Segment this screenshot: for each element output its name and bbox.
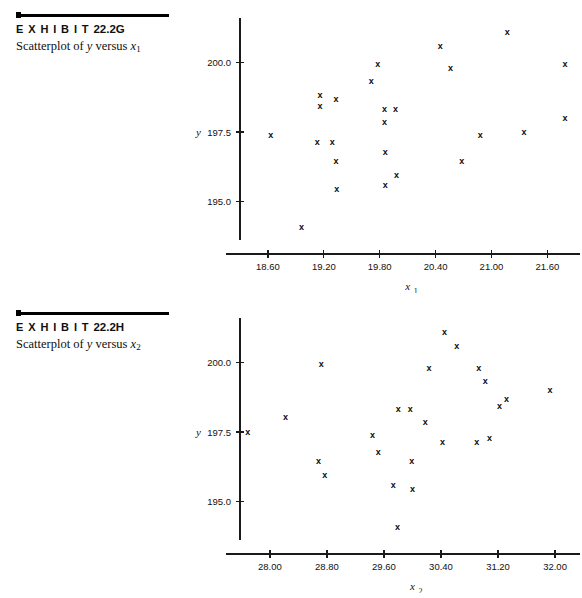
y-axis-tick-label: 197.5 [207, 427, 231, 438]
data-point-marker: x [426, 363, 431, 373]
caption-var-x-subscript: 1 [136, 44, 141, 54]
x-axis-tick-label: 31.20 [486, 561, 510, 572]
exhibit-caption-22-2g: E X H I B I T 22.2G Scatterplot of y ver… [16, 12, 186, 54]
exhibit-label-prefix: E X H I B I T [16, 23, 89, 35]
caption-prefix: Scatterplot of [16, 337, 87, 351]
data-point-marker: x [478, 130, 483, 140]
y-axis-title: y [195, 426, 201, 438]
x-axis-tick-label: 19.20 [312, 261, 336, 272]
exhibit-page: E X H I B I T 22.2G Scatterplot of y ver… [0, 0, 582, 598]
data-point-marker: x [522, 127, 527, 137]
data-point-marker: x [563, 59, 568, 69]
exhibit-subtitle-22-2h: Scatterplot of y versus x2 [16, 337, 186, 352]
data-point-marker: x [334, 184, 339, 194]
caption-prefix: Scatterplot of [16, 39, 87, 53]
y-axis-tick-label: 200.0 [207, 57, 231, 68]
exhibit-label-prefix: E X H I B I T [16, 321, 89, 333]
data-point-marker: x [410, 484, 415, 494]
data-point-marker: x [409, 456, 414, 466]
x-axis-tick-label: 32.00 [543, 561, 567, 572]
data-point-marker: x [408, 404, 413, 414]
data-point-marker: x [459, 156, 464, 166]
data-point-marker: x [395, 522, 400, 532]
data-point-marker: x [245, 427, 250, 437]
data-point-marker: x [283, 412, 288, 422]
x-axis-tick-label: 28.00 [258, 561, 282, 572]
x-axis-title-subscript: 1 [414, 287, 418, 293]
data-point-marker: x [442, 327, 447, 337]
y-axis-tick-label: 197.5 [207, 127, 231, 138]
caption-mid: versus [92, 337, 130, 351]
data-point-marker: x [487, 433, 492, 443]
exhibit-title-22-2h: E X H I B I T 22.2H [16, 321, 186, 333]
scatterplot-22-2h: 195.0197.5200.0y28.0028.8029.6030.4031.2… [190, 308, 582, 593]
y-axis-tick-label: 200.0 [207, 357, 231, 368]
data-point-marker: x [393, 104, 398, 114]
x-axis-tick-label: 30.40 [429, 561, 453, 572]
data-point-marker: x [382, 104, 387, 114]
data-point-marker: x [370, 430, 375, 440]
caption-var-x-subscript: 2 [136, 342, 141, 352]
data-point-marker: x [563, 113, 568, 123]
x-axis-title-subscript: 2 [418, 587, 422, 593]
data-point-marker: x [504, 394, 509, 404]
data-point-marker: x [394, 170, 399, 180]
exhibit-rule [16, 310, 169, 319]
scatterplot-canvas-22-2g: 195.0197.5200.0y18.6019.2019.8020.4021.0… [190, 8, 582, 293]
x-axis-tick-label: 21.00 [480, 261, 504, 272]
y-axis-tick-label: 195.0 [207, 196, 231, 207]
y-axis-tick-label: 195.0 [207, 496, 231, 507]
data-point-marker: x [333, 156, 338, 166]
exhibit-caption-22-2h: E X H I B I T 22.2H Scatterplot of y ver… [16, 310, 186, 352]
data-point-marker: x [474, 437, 479, 447]
x-axis-title: x [409, 580, 415, 592]
data-point-marker: x [440, 437, 445, 447]
data-point-marker: x [383, 147, 388, 157]
exhibit-title-22-2g: E X H I B I T 22.2G [16, 23, 186, 35]
data-point-marker: x [396, 404, 401, 414]
data-point-marker: x [318, 101, 323, 111]
scatterplot-22-2g: 195.0197.5200.0y18.6019.2019.8020.4021.0… [190, 8, 582, 293]
data-point-marker: x [315, 137, 320, 147]
data-point-marker: x [322, 470, 327, 480]
data-point-marker: x [548, 385, 553, 395]
scatterplot-canvas-22-2h: 195.0197.5200.0y28.0028.8029.6030.4031.2… [190, 308, 582, 593]
data-point-marker: x [476, 363, 481, 373]
data-point-marker: x [319, 359, 324, 369]
data-point-marker: x [438, 41, 443, 51]
caption-mid: versus [92, 39, 130, 53]
x-axis-tick-label: 19.80 [368, 261, 392, 272]
data-point-marker: x [483, 376, 488, 386]
data-point-marker: x [454, 341, 459, 351]
exhibit-subtitle-22-2g: Scatterplot of y versus x1 [16, 39, 186, 54]
data-point-marker: x [318, 90, 323, 100]
x-axis-tick-label: 28.80 [315, 561, 339, 572]
data-point-marker: x [376, 447, 381, 457]
data-point-marker: x [316, 456, 321, 466]
data-point-marker: x [497, 401, 502, 411]
y-axis-title: y [195, 126, 201, 138]
exhibit-label-number: 22.2G [93, 23, 124, 35]
data-point-marker: x [383, 180, 388, 190]
data-point-marker: x [333, 94, 338, 104]
data-point-marker: x [382, 117, 387, 127]
data-point-marker: x [268, 130, 273, 140]
data-point-marker: x [375, 59, 380, 69]
rule-bar [16, 14, 169, 17]
data-point-marker: x [299, 222, 304, 232]
x-axis-tick-label: 20.40 [424, 261, 448, 272]
data-point-marker: x [448, 63, 453, 73]
data-point-marker: x [369, 76, 374, 86]
exhibit-label-number: 22.2H [93, 321, 124, 333]
x-axis-tick-label: 21.60 [536, 261, 560, 272]
x-axis-tick-label: 18.60 [256, 261, 280, 272]
data-point-marker: x [330, 137, 335, 147]
data-point-marker: x [505, 27, 510, 37]
data-point-marker: x [391, 480, 396, 490]
data-point-marker: x [423, 417, 428, 427]
exhibit-rule [16, 12, 169, 21]
x-axis-tick-label: 29.60 [372, 561, 396, 572]
rule-bar [16, 312, 169, 315]
x-axis-title: x [404, 280, 410, 292]
